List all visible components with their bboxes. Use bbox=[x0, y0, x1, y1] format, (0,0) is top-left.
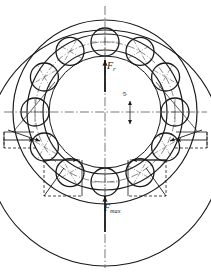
max-force-label: Fmax bbox=[104, 203, 120, 214]
radial-force-subscript: r bbox=[113, 65, 116, 72]
radial-force-label: Fr bbox=[107, 61, 116, 73]
angle-label: ψ bbox=[121, 92, 128, 96]
angle-arrow-down bbox=[128, 120, 132, 124]
max-force-subscript: max bbox=[110, 207, 120, 214]
bearing-load-diagram bbox=[0, 0, 211, 274]
figure-canvas: Fr Fmax ψ bbox=[0, 0, 211, 274]
angle-arrow-up bbox=[128, 101, 132, 105]
